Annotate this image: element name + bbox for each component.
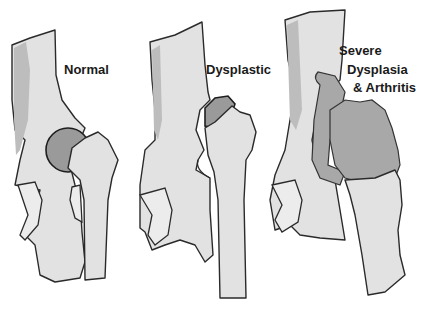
label-severe-line3: & Arthritis: [353, 80, 416, 96]
severe-dysplasia-arthritis-illustration: [270, 10, 405, 295]
label-severe-line1: Severe: [339, 43, 382, 59]
label-dysplastic: Dysplastic: [206, 62, 271, 78]
label-severe-line2: Dysplasia: [347, 62, 408, 78]
label-normal: Normal: [64, 62, 109, 78]
